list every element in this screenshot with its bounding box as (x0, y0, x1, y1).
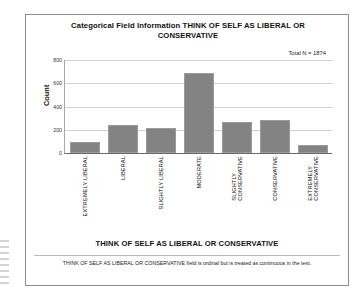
x-axis-category-label: MODERATE (196, 156, 202, 188)
page-edge-artifact (0, 240, 9, 286)
y-axis-tick-label: 600 (53, 80, 62, 86)
bar[interactable] (222, 122, 252, 153)
y-axis-tick-label: 0 (59, 150, 62, 156)
x-axis-category-label: SLIGHTLY LIBERAL (158, 156, 164, 210)
bar[interactable] (298, 145, 328, 153)
x-axis-category-label: LIBERAL (120, 156, 126, 180)
bar-slot: LIBERAL (104, 60, 142, 153)
bar[interactable] (146, 128, 176, 153)
x-axis-category-label: CONSERVATIVE (272, 156, 278, 201)
x-axis-category-label: EXTREMELY CONSERVATIVE (307, 156, 319, 201)
bar[interactable] (108, 125, 138, 153)
gridline (65, 153, 332, 154)
chart-footnote: THINK OF SELF AS LIBERAL OR CONSERVATIVE… (32, 260, 342, 267)
bar-slot: EXTREMELY CONSERVATIVE (294, 60, 332, 153)
x-axis-category-label: SLIGHTLY CONSERVATIVE (231, 156, 243, 201)
total-n-annotation: Total N = 1874 (288, 50, 326, 56)
bar-slot: MODERATE (180, 60, 218, 153)
x-axis-title: THINK OF SELF AS LIBERAL OR CONSERVATIVE (26, 239, 348, 248)
footnote-divider (34, 255, 340, 256)
x-axis-category-label: EXTREMELY LIBERAL (82, 156, 88, 216)
y-axis-tick-label: 800 (53, 57, 62, 63)
chart-figure: Categorical Field Information THINK OF S… (25, 14, 349, 286)
bar[interactable] (184, 73, 214, 153)
bars-layer: EXTREMELY LIBERALLIBERALSLIGHTLY LIBERAL… (66, 60, 332, 153)
bar[interactable] (260, 120, 290, 153)
y-axis-tick-label: 400 (53, 104, 62, 110)
bar[interactable] (70, 142, 100, 153)
bar-slot: CONSERVATIVE (256, 60, 294, 153)
y-axis-tick-label: 200 (53, 127, 62, 133)
bar-slot: EXTREMELY LIBERAL (66, 60, 104, 153)
y-axis-title: Count (42, 85, 51, 106)
plot-area: Total N = 1874 0200400600800 EXTREMELY L… (64, 60, 332, 154)
bar-slot: SLIGHTLY CONSERVATIVE (218, 60, 256, 153)
bar-slot: SLIGHTLY LIBERAL (142, 60, 180, 153)
